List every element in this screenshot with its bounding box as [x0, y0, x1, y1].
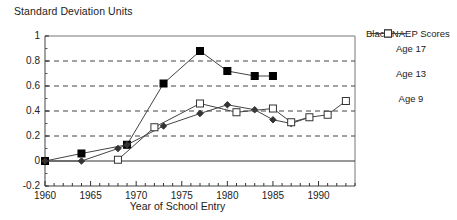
- series-age-17: [42, 48, 277, 165]
- y-tick-label: 1: [0, 30, 40, 41]
- data-point-marker: [114, 156, 121, 163]
- data-point-marker: [224, 68, 231, 75]
- x-axis-title: Year of School Entry: [0, 200, 355, 212]
- data-point-marker: [342, 98, 349, 105]
- legend-symbol: [366, 54, 456, 65]
- data-point-marker: [197, 48, 204, 55]
- data-point-marker: [269, 73, 276, 80]
- legend-symbol: [366, 104, 456, 115]
- series-line: [45, 51, 273, 161]
- legend-entry: Age 13: [366, 68, 456, 90]
- data-point-marker: [306, 114, 313, 121]
- legend-entry: Age 9: [366, 93, 456, 115]
- data-point-marker: [78, 158, 84, 164]
- data-point-marker: [233, 109, 240, 116]
- y-tick-label: 0.4: [0, 105, 40, 116]
- data-point-marker: [197, 100, 204, 107]
- data-point-marker: [288, 119, 295, 126]
- y-tick-label: 0.8: [0, 55, 40, 66]
- data-point-marker: [324, 111, 331, 118]
- data-point-marker: [78, 150, 85, 157]
- data-point-marker: [385, 30, 392, 37]
- data-point-marker: [270, 117, 276, 123]
- data-point-marker: [160, 80, 167, 87]
- data-point-marker: [251, 73, 258, 80]
- chart-container: Standard Deviation Units 10.80.60.40.20-…: [0, 0, 457, 220]
- data-point-marker: [151, 124, 158, 131]
- data-point-marker: [224, 102, 230, 108]
- data-point-marker: [269, 105, 276, 112]
- chart-legend: Black NAEP Scores Age 17Age 13Age 9: [366, 28, 456, 115]
- y-tick-label: 0: [0, 155, 40, 166]
- legend-entry-label: Age 9: [366, 93, 456, 104]
- y-tick-label: 0.2: [0, 130, 40, 141]
- y-tick-label: 0.6: [0, 80, 40, 91]
- legend-entry-label: Age 13: [366, 68, 456, 79]
- legend-entry: Age 17: [366, 43, 456, 65]
- legend-symbol: [366, 79, 456, 90]
- legend-entry-label: Age 17: [366, 43, 456, 54]
- legend-entries: Age 17Age 13Age 9: [366, 43, 456, 115]
